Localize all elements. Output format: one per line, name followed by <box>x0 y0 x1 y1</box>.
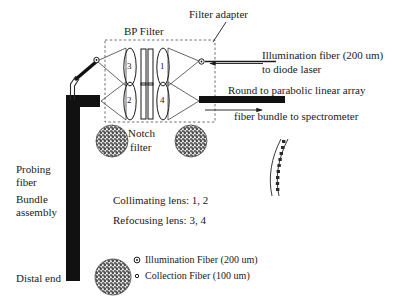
legend-item-label-1: Collection Fiber (100 um) <box>145 270 250 282</box>
label-illumination-fiber-line2: to diode laser <box>262 63 321 76</box>
collection-optical-channel <box>101 82 199 120</box>
label-notch-filter-line2: filter <box>130 141 151 154</box>
label-probing-fiber-line2: fiber <box>16 176 37 189</box>
figure-canvas: Filter adapter BP Filter Notch filter Il… <box>0 0 394 304</box>
lens-number-top-left: 3 <box>127 61 132 72</box>
collection-fiber-marker-icon <box>135 274 138 277</box>
label-probing-fiber-line1: Probing <box>16 163 51 176</box>
illumination-optical-channel <box>97 48 199 86</box>
label-distal-end: Distal end <box>16 272 61 285</box>
fiber-bundle-cross-section-left <box>96 125 128 157</box>
label-bp-filter: BP Filter <box>124 25 164 38</box>
curved-linear-array-icon <box>270 139 288 196</box>
illumination-port-core <box>96 59 98 61</box>
filter-adapter-leader-line <box>213 22 226 42</box>
label-spectrometer-line1: Round to parabolic linear array <box>228 84 365 97</box>
lens-number-top-right: 1 <box>160 61 165 72</box>
label-filter-adapter: Filter adapter <box>189 8 248 21</box>
label-bundle-assembly-line1: Bundle <box>16 193 48 206</box>
probing-fiber-bundle-body <box>66 62 100 281</box>
label-collimating-lens: Collimating lens: 1, 2 <box>113 194 208 207</box>
lens-number-bottom-right: 4 <box>160 95 165 106</box>
label-spectrometer-line2: fiber bundle to spectrometer <box>234 110 358 123</box>
illumination-fiber-marker-core <box>136 259 138 261</box>
legend-item-label-0: Illumination Fiber (200 um) <box>145 254 258 266</box>
fiber-bundle-cross-section-right <box>175 125 207 157</box>
adapter-port-core <box>201 61 203 63</box>
label-notch-filter-line1: Notch <box>128 127 155 140</box>
label-bundle-assembly-line2: assembly <box>16 206 57 219</box>
label-illumination-fiber-line1: Illumination fiber (200 um) <box>262 49 383 62</box>
lens-number-bottom-left: 2 <box>127 95 132 106</box>
collection-bundle-line <box>199 96 285 103</box>
fiber-bundle-cross-section-distal <box>95 259 131 295</box>
label-refocusing-lens: Refocusing lens: 3, 4 <box>113 214 206 227</box>
filter-adapter-box <box>105 40 215 122</box>
